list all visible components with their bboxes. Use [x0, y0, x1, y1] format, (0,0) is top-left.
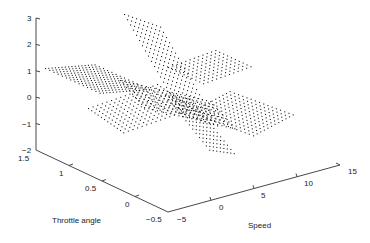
z-tick-label: −1 — [22, 120, 32, 129]
throttle-tick-label: 1 — [59, 169, 64, 178]
z-tick-label: 1 — [27, 67, 32, 76]
axis-labels: 3210−1−21.510.50−0.5−5051015Throttle ang… — [18, 14, 357, 230]
speed-tick-label: 15 — [348, 167, 357, 176]
throttle-tick-label: 0 — [125, 200, 130, 209]
throttle-tick-label: −0.5 — [146, 215, 162, 224]
lower-left-plane — [88, 84, 193, 133]
lower-right-plane — [190, 91, 294, 136]
z-tick-label: 2 — [27, 40, 32, 49]
z-tick-label: 0 — [27, 93, 32, 102]
speed-tick-label: 0 — [219, 203, 224, 212]
mid-cross-plane — [120, 80, 235, 129]
speed-axis-title: Speed — [248, 221, 271, 230]
speed-tick-label: 10 — [304, 179, 313, 188]
upper-steep-plane — [124, 14, 218, 127]
throttle-tick-label: 1.5 — [18, 154, 30, 163]
speed-tick-label: 5 — [261, 191, 266, 200]
throttle-tick-label: 0.5 — [85, 184, 97, 193]
surface-dots — [45, 14, 294, 154]
axes — [36, 18, 340, 212]
speed-tick-label: −5 — [177, 215, 187, 224]
left-plane — [45, 64, 150, 93]
z-tick-label: 3 — [27, 14, 32, 23]
3d-surface-plot: 3210−1−21.510.50−0.5−5051015Throttle ang… — [0, 0, 370, 243]
throttle-axis-title: Throttle angle — [52, 216, 101, 225]
